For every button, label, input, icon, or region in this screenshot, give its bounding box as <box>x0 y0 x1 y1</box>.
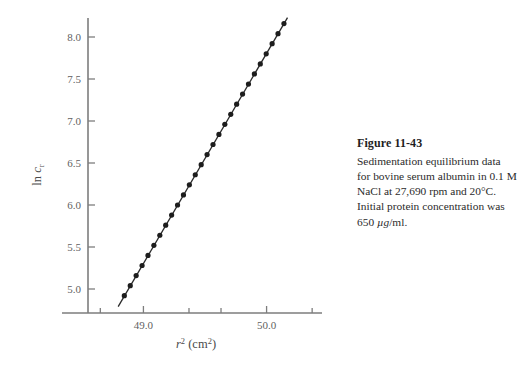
data-point <box>228 112 233 117</box>
y-tick-label: 5.5 <box>67 241 81 253</box>
y-axis-ticks <box>88 37 95 289</box>
data-point <box>281 21 286 26</box>
y-tick-label: 6.0 <box>67 199 81 211</box>
y-tick-label: 5.0 <box>67 283 81 295</box>
x-tick-label: 49.0 <box>134 319 154 331</box>
data-point <box>252 71 257 76</box>
figure-caption-line: Sedimentation equilibrium data <box>357 154 525 169</box>
figure-caption-line: Initial protein concentration was <box>357 199 525 214</box>
y-axis-title-fn: ln <box>30 173 44 186</box>
data-point <box>270 41 275 46</box>
data-point <box>275 31 280 36</box>
figure-caption-line: 650 µg/ml. <box>357 215 525 230</box>
data-point <box>139 263 144 268</box>
data-point <box>216 132 221 137</box>
data-point <box>181 192 186 197</box>
data-point <box>145 253 150 258</box>
data-point <box>240 92 245 97</box>
best-fit-line <box>118 18 287 307</box>
figure-container: 5.05.56.06.57.07.58.0 49.050.0 ln cr r2 … <box>0 0 529 365</box>
x-axis-tick-labels: 49.050.0 <box>134 319 277 331</box>
plot-panel: 5.05.56.06.57.07.58.0 49.050.0 ln cr r2 … <box>0 0 330 365</box>
figure-caption: Figure 11-43 Sedimentation equilibrium d… <box>357 136 525 230</box>
data-point <box>264 51 269 56</box>
x-tick-label: 50.0 <box>257 319 277 331</box>
data-point <box>258 61 263 66</box>
data-point <box>151 243 156 248</box>
y-axis-title: ln cr <box>30 164 46 185</box>
data-point <box>122 293 127 298</box>
x-axis-title-unit: (cm <box>185 337 208 351</box>
data-point <box>234 102 239 107</box>
data-point <box>246 81 251 86</box>
y-tick-label: 6.5 <box>67 157 81 169</box>
y-axis-title-subscript: r <box>36 164 46 167</box>
data-point <box>204 152 209 157</box>
y-tick-label: 7.5 <box>67 73 81 85</box>
data-point <box>210 142 215 147</box>
data-point <box>134 273 139 278</box>
figure-caption-line: NaCl at 27,690 rpm and 20°C. <box>357 184 525 199</box>
data-point <box>222 122 227 127</box>
x-axis-title: r2 (cm2) <box>176 336 216 351</box>
y-tick-label: 8.0 <box>67 31 81 43</box>
data-point <box>175 202 180 207</box>
y-axis-tick-labels: 5.05.56.06.57.07.58.0 <box>67 31 81 295</box>
figure-caption-line: for bovine serum albumin in 0.1 M <box>357 169 525 184</box>
figure-caption-body: Sedimentation equilibrium datafor bovine… <box>357 154 525 230</box>
data-point <box>193 172 198 177</box>
y-tick-label: 7.0 <box>67 115 81 127</box>
caption-unit-mu-g: µg <box>377 216 389 228</box>
x-axis-major-ticks <box>143 306 266 313</box>
x-axis-title-close: ) <box>212 337 216 351</box>
data-point <box>157 233 162 238</box>
data-point <box>187 182 192 187</box>
data-point <box>199 162 204 167</box>
data-point <box>163 223 168 228</box>
sedimentation-equilibrium-chart: 5.05.56.06.57.07.58.0 49.050.0 ln cr r2 … <box>0 0 330 365</box>
figure-caption-title: Figure 11-43 <box>357 136 525 151</box>
data-point <box>169 212 174 217</box>
data-point <box>128 283 133 288</box>
